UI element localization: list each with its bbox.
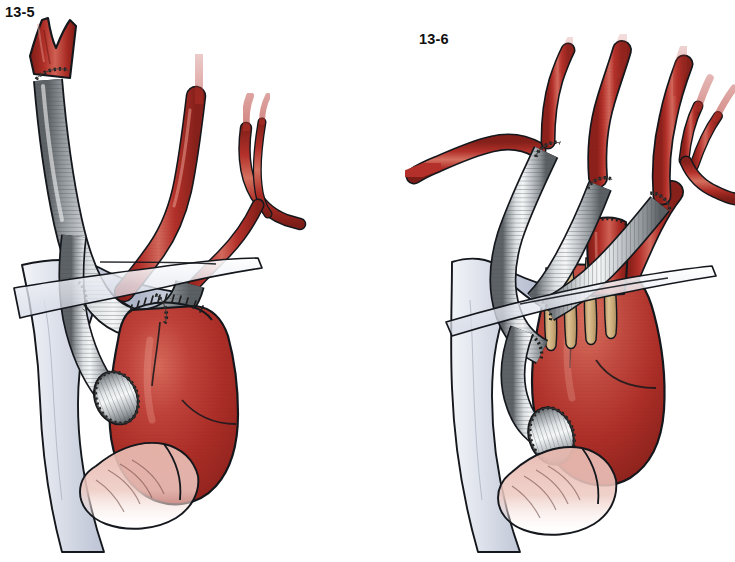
bifurcation-cut-tip-a — [246, 96, 250, 128]
figure-label-13-6: 13-6 — [419, 31, 449, 47]
surgical-illustration-canvas — [0, 0, 735, 562]
carotid-cut-end — [196, 58, 202, 100]
illustration-plate: 13-5 13-6 — [0, 0, 735, 562]
figure-label-13-5: 13-5 — [5, 4, 35, 20]
